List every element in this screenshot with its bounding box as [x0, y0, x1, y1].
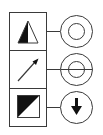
circle-down-arrow-icon	[61, 92, 93, 124]
diagram-svg	[0, 0, 103, 135]
symbol-diagram	[0, 0, 103, 135]
concentric-circles-crosshair-icon	[61, 54, 93, 86]
concentric-circles-icon	[61, 16, 93, 48]
